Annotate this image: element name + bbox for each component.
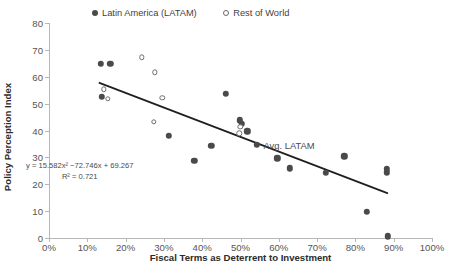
legend-label-rest-of-world: Rest of World [233, 8, 289, 18]
x-axis-title: Fiscal Terms as Deterrent to Investment [49, 252, 432, 263]
y-axis-tick [45, 131, 49, 132]
plot-area: 010203040506070800%10%20%30%40%50%60%70%… [49, 23, 432, 238]
avg-latam-label: Avg. LATAM [263, 140, 314, 151]
y-axis-tick [45, 77, 49, 78]
r-squared-text: R² = 0.721 [26, 171, 133, 182]
legend-item-latin-america[interactable]: Latin America (LATAM) [92, 8, 197, 18]
y-axis-tick [45, 184, 49, 185]
y-axis-tick-label: 70 [32, 44, 43, 55]
y-axis-tick-label: 40 [32, 125, 43, 136]
y-axis-tick-label: 60 [32, 71, 43, 82]
y-axis-title: Policy Perception Index [0, 0, 14, 274]
y-axis-tick [45, 104, 49, 105]
scatter-chart: Latin America (LATAM) Rest of World 0102… [0, 0, 459, 274]
y-axis-tick [45, 23, 49, 24]
trendline-equation-annotation: y = 15.582x² −72.746x + 69.267 R² = 0.72… [26, 160, 133, 182]
filled-circle-marker-icon [92, 10, 98, 16]
chart-legend: Latin America (LATAM) Rest of World [92, 8, 289, 18]
y-axis-tick [45, 211, 49, 212]
legend-item-rest-of-world[interactable]: Rest of World [223, 8, 290, 18]
y-axis-tick-label: 50 [32, 98, 43, 109]
trendline-segment [99, 83, 388, 194]
y-axis-tick [45, 157, 49, 158]
hollow-circle-marker-icon [223, 10, 230, 17]
legend-label-latin-america: Latin America (LATAM) [102, 8, 197, 18]
y-axis-tick [45, 50, 49, 51]
y-axis-tick-label: 80 [32, 18, 43, 29]
equation-text: y = 15.582x² −72.746x + 69.267 [26, 160, 133, 171]
y-axis-tick-label: 10 [32, 206, 43, 217]
